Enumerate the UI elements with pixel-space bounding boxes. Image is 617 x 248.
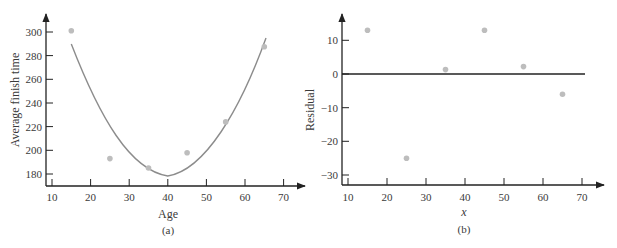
y-tick-label: 240 xyxy=(26,97,43,109)
x-tick-label: 50 xyxy=(499,191,511,203)
chart-b-x-axis-title: x xyxy=(460,205,467,219)
y-tick-label: −20 xyxy=(321,135,339,147)
x-tick-label: 30 xyxy=(124,191,136,203)
chart-a-fit-curve xyxy=(71,38,266,176)
x-tick-label: 60 xyxy=(538,191,550,203)
chart-b: 10 0 −10 −20 −30 10 20 30 40 50 60 70 x xyxy=(303,14,604,236)
y-tick-label: 200 xyxy=(26,144,43,156)
y-tick-label: 0 xyxy=(333,68,339,80)
data-point xyxy=(146,165,152,171)
y-tick-label: 10 xyxy=(327,34,339,46)
chart-a-x-axis-title: Age xyxy=(158,207,178,221)
chart-a-x-tick-labels: 10 20 30 40 50 60 70 xyxy=(47,191,290,203)
x-tick-label: 20 xyxy=(382,191,394,203)
y-tick-label: −10 xyxy=(321,102,339,114)
data-point xyxy=(443,67,449,73)
x-tick-label: 60 xyxy=(240,191,252,203)
data-point xyxy=(262,44,268,50)
data-point xyxy=(482,27,488,33)
data-point xyxy=(365,27,371,33)
chart-a-x-ticks xyxy=(52,179,284,186)
chart-b-caption: (b) xyxy=(458,223,471,236)
chart-b-x-tick-labels: 10 20 30 40 50 60 70 xyxy=(343,191,589,203)
chart-a: 180 200 220 240 260 280 300 10 20 30 40 … xyxy=(8,14,305,237)
data-point xyxy=(223,119,229,125)
chart-b-y-axis-title: Residual xyxy=(303,88,317,131)
x-tick-label: 10 xyxy=(343,191,355,203)
x-tick-label: 10 xyxy=(47,191,59,203)
y-tick-label: 280 xyxy=(26,50,43,62)
figure: 180 200 220 240 260 280 300 10 20 30 40 … xyxy=(0,0,617,248)
data-point xyxy=(69,28,75,34)
x-tick-label: 20 xyxy=(85,191,97,203)
x-tick-label: 70 xyxy=(278,191,290,203)
y-tick-label: 260 xyxy=(26,73,43,85)
x-tick-label: 40 xyxy=(460,191,472,203)
data-point xyxy=(404,155,410,161)
chart-a-y-tick-labels: 180 200 220 240 260 280 300 xyxy=(26,26,43,180)
y-tick-label: −30 xyxy=(321,169,339,181)
x-tick-label: 30 xyxy=(421,191,433,203)
data-point xyxy=(560,91,566,97)
x-tick-label: 50 xyxy=(201,191,213,203)
data-point xyxy=(521,64,527,70)
chart-a-y-axis-title: Average finish time xyxy=(8,53,22,147)
data-point xyxy=(184,150,190,156)
chart-a-caption: (a) xyxy=(162,224,175,237)
x-tick-label: 70 xyxy=(577,191,589,203)
chart-b-y-tick-labels: 10 0 −10 −20 −30 xyxy=(321,34,339,181)
chart-b-y-ticks xyxy=(342,40,349,175)
y-tick-label: 180 xyxy=(26,168,43,180)
data-point xyxy=(107,156,113,162)
chart-b-points xyxy=(365,27,566,161)
chart-a-points xyxy=(69,28,268,171)
chart-b-x-ticks xyxy=(348,178,582,185)
chart-a-y-ticks xyxy=(46,32,53,174)
y-tick-label: 220 xyxy=(26,121,43,133)
y-tick-label: 300 xyxy=(26,26,43,38)
x-tick-label: 40 xyxy=(162,191,174,203)
